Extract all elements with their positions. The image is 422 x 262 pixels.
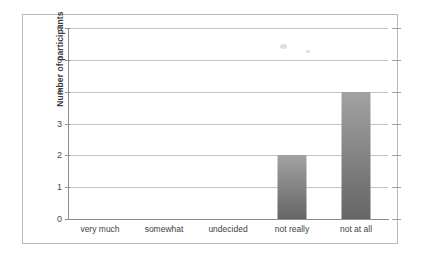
scan-speckle bbox=[280, 44, 287, 49]
y-tick-label-5: 5 bbox=[44, 55, 62, 65]
right-tick-3 bbox=[392, 124, 401, 125]
category-label-somewhat: somewhat bbox=[145, 224, 184, 234]
scan-speckle bbox=[306, 50, 310, 53]
y-tick-label-0: 0 bbox=[44, 214, 62, 224]
category-label-not-at-all: not at all bbox=[340, 224, 372, 234]
y-tick-label-6: 6 bbox=[44, 23, 62, 33]
right-tick-0 bbox=[392, 219, 401, 220]
bar-not-really[interactable] bbox=[278, 155, 307, 219]
right-tick-2 bbox=[392, 155, 401, 156]
bar-chart: Number of participants 0 1 2 3 4 5 6 bbox=[0, 0, 422, 262]
right-tick-5 bbox=[392, 60, 401, 61]
x-axis-line bbox=[68, 219, 389, 220]
y-tick-label-3: 3 bbox=[44, 119, 62, 129]
y-tick-label-4: 4 bbox=[44, 87, 62, 97]
category-label-undecided: undecided bbox=[208, 224, 247, 234]
right-tick-4 bbox=[392, 92, 401, 93]
bar-slot-not-really bbox=[260, 28, 324, 219]
x-axis-category-labels: very much somewhat undecided not really … bbox=[68, 224, 388, 238]
y-tick-label-1: 1 bbox=[44, 182, 62, 192]
bar-slot-not-at-all bbox=[324, 28, 388, 219]
bar-slot-somewhat bbox=[132, 28, 196, 219]
category-label-very-much: very much bbox=[80, 224, 119, 234]
category-label-not-really: not really bbox=[275, 224, 310, 234]
bars-layer bbox=[68, 28, 388, 219]
right-tick-6 bbox=[392, 28, 401, 29]
bar-not-at-all[interactable] bbox=[342, 92, 371, 219]
right-tick-1 bbox=[392, 187, 401, 188]
bar-slot-undecided bbox=[196, 28, 260, 219]
plot-area bbox=[68, 28, 388, 219]
y-axis-tick-labels: 0 1 2 3 4 5 6 bbox=[44, 28, 62, 219]
y-tick-mark-0 bbox=[65, 219, 70, 220]
bar-slot-very-much bbox=[68, 28, 132, 219]
y-tick-label-2: 2 bbox=[44, 150, 62, 160]
